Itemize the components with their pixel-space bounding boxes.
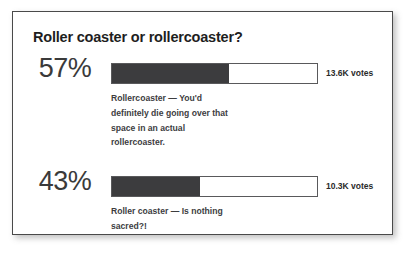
option-bar-fill bbox=[112, 64, 229, 83]
poll-card: Roller coaster or rollercoaster? 57% 13.… bbox=[12, 11, 393, 235]
option-bar-fill bbox=[112, 177, 200, 196]
page-title: Roller coaster or rollercoaster? bbox=[33, 29, 243, 45]
option-bar-track bbox=[111, 63, 318, 84]
option-description: Roller coaster — Is nothing sacred?! bbox=[111, 204, 233, 234]
option-percent-label: 43% bbox=[27, 166, 103, 197]
option-votes-label: 13.6K votes bbox=[326, 68, 373, 78]
option-votes-label: 10.3K votes bbox=[326, 181, 373, 191]
option-description: Rollercoaster — You'd definitely die goi… bbox=[111, 91, 233, 150]
option-bar-track bbox=[111, 176, 318, 197]
option-percent-label: 57% bbox=[27, 53, 103, 84]
